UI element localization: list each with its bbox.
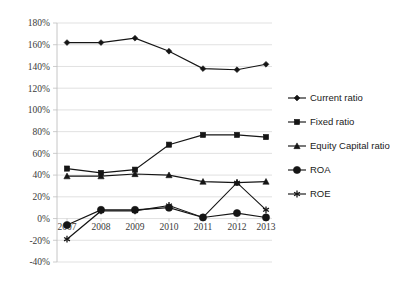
line-chart: 180%160%140%120%100%80%60%40%20%0%-20%-4… — [0, 0, 411, 289]
data-point-marker — [234, 132, 239, 137]
legend-item-fixed-ratio[interactable]: Fixed ratio — [288, 116, 354, 127]
y-tick-label: 60% — [33, 149, 51, 159]
y-tick-label: 160% — [28, 40, 50, 50]
legend-label: ROE — [310, 188, 331, 199]
x-tick-label: 2011 — [194, 222, 213, 232]
legend-label: Current ratio — [310, 92, 363, 103]
legend-marker-square — [294, 119, 299, 124]
chart-legend: Current ratioFixed ratioEquity Capital r… — [288, 92, 390, 199]
legend-item-roa[interactable]: ROA — [288, 164, 331, 175]
y-tick-label: 140% — [28, 62, 50, 72]
y-tick-label: 80% — [33, 127, 51, 137]
data-point-marker — [166, 142, 171, 147]
data-point-marker — [132, 35, 138, 41]
series-current-ratio — [64, 35, 269, 72]
y-tick-label: 40% — [33, 170, 51, 180]
x-tick-label: 2008 — [92, 222, 111, 232]
legend-label: ROA — [310, 164, 331, 175]
x-tick-label: 2009 — [126, 222, 145, 232]
legend-item-equity-capital-ratio[interactable]: Equity Capital ratio — [288, 140, 390, 151]
chart-container: 180%160%140%120%100%80%60%40%20%0%-20%-4… — [0, 0, 411, 289]
y-tick-label: 20% — [33, 192, 51, 202]
legend-marker-diamond — [294, 95, 300, 101]
series-fixed-ratio — [64, 132, 268, 175]
data-point-marker — [64, 166, 69, 171]
legend-marker-circle — [293, 166, 300, 173]
y-tick-label: -40% — [29, 257, 50, 267]
data-point-marker — [166, 48, 172, 54]
x-tick-label: 2010 — [160, 222, 179, 232]
data-point-marker — [262, 214, 269, 221]
legend-label: Fixed ratio — [310, 116, 354, 127]
y-tick-label: -20% — [29, 236, 50, 246]
series-line — [67, 135, 266, 173]
y-axis-tick-labels: 180%160%140%120%100%80%60%40%20%0%-20%-4… — [28, 18, 50, 267]
data-point-marker — [263, 134, 268, 139]
legend-item-current-ratio[interactable]: Current ratio — [288, 92, 363, 103]
legend-item-roe[interactable]: ROE — [288, 188, 331, 199]
y-tick-label: 100% — [28, 105, 50, 115]
y-tick-label: 120% — [28, 84, 50, 94]
y-tick-label: 0% — [37, 214, 50, 224]
legend-label: Equity Capital ratio — [310, 140, 390, 151]
x-tick-label: 2013 — [257, 222, 276, 232]
x-tick-label: 2012 — [228, 222, 247, 232]
x-axis-tick-labels: 2007200820092010201120122013 — [58, 222, 276, 232]
series-line — [67, 38, 266, 70]
y-tick-label: 180% — [28, 18, 50, 28]
data-point-marker — [200, 132, 205, 137]
data-point-marker — [63, 221, 70, 228]
data-point-marker — [233, 210, 240, 217]
data-point-marker — [234, 67, 240, 73]
